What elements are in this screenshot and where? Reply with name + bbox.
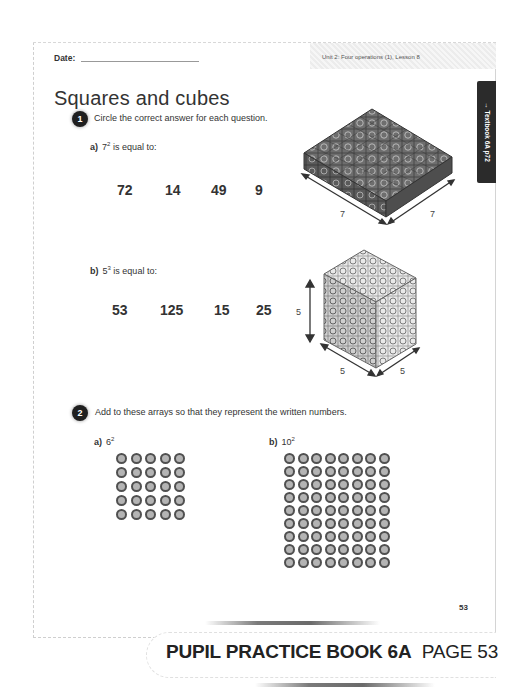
dot-array-b[interactable] <box>284 453 390 568</box>
array-dot <box>325 518 336 529</box>
array-dot <box>311 518 322 529</box>
question-1-instruction: Circle the correct answer for each quest… <box>94 113 268 123</box>
array-dot <box>325 531 336 542</box>
answer-option[interactable]: 9 <box>255 182 275 198</box>
answer-option[interactable]: 72 <box>117 182 165 198</box>
array-dot <box>145 481 156 492</box>
suffix: is equal to: <box>111 266 157 276</box>
array-dot <box>311 505 322 516</box>
square-slab-figure: 7 7 <box>282 105 458 243</box>
array-dot <box>338 466 349 477</box>
part-letter: b) <box>90 266 99 276</box>
array-dot <box>352 453 363 464</box>
array-dot <box>325 453 336 464</box>
textbook-reference-tab[interactable]: → Textbook 6A p72 <box>477 81 496 183</box>
array-dot <box>311 492 322 503</box>
question-1a-label: a)72 is equal to: <box>90 141 156 152</box>
suffix: is equal to: <box>110 142 156 152</box>
array-dot <box>379 505 390 516</box>
array-dot <box>131 453 142 464</box>
array-dot <box>352 518 363 529</box>
array-dot <box>145 453 156 464</box>
question-1b-options: 53 125 15 25 <box>112 302 280 318</box>
array-dot <box>352 479 363 490</box>
array-dot <box>160 509 171 520</box>
array-dot <box>284 505 295 516</box>
slab-label-left: 7 <box>340 209 345 219</box>
array-dot <box>365 518 376 529</box>
cube-label-height: 5 <box>296 307 301 317</box>
array-dot <box>174 495 185 506</box>
array-dot <box>379 453 390 464</box>
array-dot <box>174 467 185 478</box>
array-dot <box>160 495 171 506</box>
array-dot <box>365 505 376 516</box>
array-dot <box>311 544 322 555</box>
array-dot <box>311 479 322 490</box>
footer-book-title: PUPIL PRACTICE BOOK 6A <box>166 641 411 662</box>
array-dot <box>145 495 156 506</box>
cube-label-right: 5 <box>400 366 405 376</box>
array-dot <box>174 453 185 464</box>
array-dot <box>365 453 376 464</box>
array-dot <box>311 453 322 464</box>
question-2b-label: b)102 <box>269 436 295 447</box>
array-dot <box>174 481 185 492</box>
array-dot <box>311 466 322 477</box>
answer-option[interactable]: 15 <box>214 302 256 318</box>
array-dot <box>352 557 363 568</box>
array-dot <box>338 492 349 503</box>
array-dot <box>379 479 390 490</box>
array-dot <box>365 479 376 490</box>
array-dot <box>298 466 309 477</box>
array-dot <box>284 492 295 503</box>
cube-label-left: 5 <box>340 366 345 376</box>
array-dot <box>325 557 336 568</box>
array-dot <box>325 492 336 503</box>
date-label: Date: <box>54 53 75 63</box>
array-dot <box>379 518 390 529</box>
array-dot <box>298 479 309 490</box>
array-dot <box>131 481 142 492</box>
footer-caption: PUPIL PRACTICE BOOK 6A PAGE 53 <box>166 641 498 663</box>
question-2-number: 2 <box>77 408 82 418</box>
array-dot <box>379 531 390 542</box>
exponent: 2 <box>292 436 295 442</box>
array-dot <box>365 557 376 568</box>
array-dot <box>365 531 376 542</box>
array-dot <box>379 492 390 503</box>
array-dot <box>298 557 309 568</box>
array-dot <box>311 557 322 568</box>
array-dot <box>116 495 127 506</box>
array-dot <box>338 544 349 555</box>
array-dot <box>298 531 309 542</box>
array-dot <box>325 505 336 516</box>
array-dot <box>160 453 171 464</box>
array-dot <box>131 467 142 478</box>
array-dot <box>338 479 349 490</box>
answer-option[interactable]: 25 <box>256 302 280 318</box>
array-dot <box>298 518 309 529</box>
array-dot <box>365 466 376 477</box>
answer-option[interactable]: 125 <box>160 302 214 318</box>
array-dot <box>284 531 295 542</box>
array-dot <box>325 466 336 477</box>
footer-streak-top <box>205 621 380 625</box>
array-dot <box>284 518 295 529</box>
array-dot <box>298 453 309 464</box>
question-2a-label: a)62 <box>94 436 114 447</box>
array-dot <box>284 557 295 568</box>
question-1-badge: 1 <box>72 111 88 127</box>
array-dot <box>365 492 376 503</box>
cube-figure: 5 5 5 <box>288 246 433 386</box>
array-dot <box>352 505 363 516</box>
dot-array-a[interactable] <box>116 453 185 520</box>
part-letter: a) <box>90 142 98 152</box>
answer-option[interactable]: 49 <box>211 182 255 198</box>
array-dot <box>284 453 295 464</box>
date-field[interactable] <box>81 61 199 62</box>
array-dot <box>284 466 295 477</box>
answer-option[interactable]: 14 <box>165 182 211 198</box>
answer-option[interactable]: 53 <box>112 302 160 318</box>
array-dot <box>145 509 156 520</box>
